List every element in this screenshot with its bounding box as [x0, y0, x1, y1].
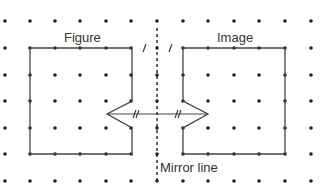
mirror-line-label: Mirror line — [160, 161, 218, 174]
grid-dot — [53, 19, 57, 23]
grid-dot — [78, 99, 82, 103]
grid-dot — [283, 19, 287, 23]
grid-dot — [3, 46, 7, 50]
grid-dot — [53, 73, 57, 77]
grid-dot — [129, 179, 133, 183]
grid-dot — [53, 179, 57, 183]
grid-dot — [309, 179, 313, 183]
grid-dot — [3, 152, 7, 156]
grid-dot — [257, 179, 261, 183]
grid-dot — [78, 73, 82, 77]
grid-dot — [232, 73, 236, 77]
grid-dot — [104, 126, 108, 130]
grid-dot — [3, 73, 7, 77]
grid-dot — [104, 73, 108, 77]
grid-dot — [257, 126, 261, 130]
dot-grid — [3, 19, 313, 183]
diagram-svg — [0, 0, 322, 186]
grid-dot — [104, 19, 108, 23]
grid-dot — [78, 19, 82, 23]
grid-dot — [283, 179, 287, 183]
figure-label: Figure — [64, 31, 101, 44]
grid-dot — [129, 19, 133, 23]
grid-dot — [28, 179, 32, 183]
grid-dot — [232, 126, 236, 130]
grid-dot — [155, 19, 159, 23]
grid-dot — [232, 99, 236, 103]
grid-dot — [181, 179, 185, 183]
grid-dot — [309, 19, 313, 23]
grid-dot — [206, 19, 210, 23]
grid-dot — [309, 73, 313, 77]
grid-dot — [206, 126, 210, 130]
reflection-diagram: Figure Image Mirror line — [0, 0, 322, 186]
grid-dot — [28, 19, 32, 23]
grid-dot — [104, 179, 108, 183]
grid-dot — [78, 179, 82, 183]
grid-dot — [206, 179, 210, 183]
grid-dot — [3, 126, 7, 130]
grid-dot — [257, 19, 261, 23]
grid-dot — [206, 99, 210, 103]
grid-dot — [3, 179, 7, 183]
grid-dot — [257, 73, 261, 77]
grid-dot — [309, 126, 313, 130]
grid-dot — [206, 73, 210, 77]
grid-dot — [309, 152, 313, 156]
grid-dot — [232, 19, 236, 23]
grid-dot — [104, 99, 108, 103]
grid-dot — [78, 126, 82, 130]
grid-dot — [257, 99, 261, 103]
grid-dot — [309, 46, 313, 50]
grid-dot — [53, 126, 57, 130]
grid-dot — [309, 99, 313, 103]
image-label: Image — [217, 31, 253, 44]
grid-dot — [3, 19, 7, 23]
grid-dot — [3, 99, 7, 103]
grid-dot — [232, 179, 236, 183]
grid-dot — [181, 19, 185, 23]
grid-dot — [53, 99, 57, 103]
